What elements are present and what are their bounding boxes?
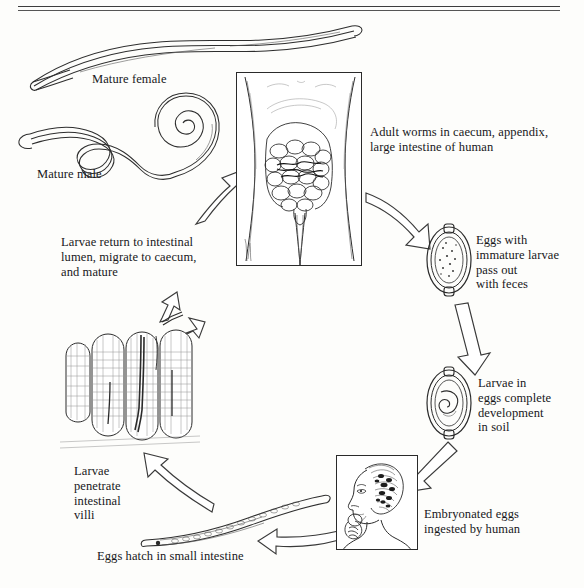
human-head-drawing [337, 456, 419, 551]
human-torso-drawing [237, 73, 363, 267]
intestinal-villi-illustration [60, 312, 200, 448]
label-larvae-soil: Larvae in eggs complete development in s… [478, 376, 551, 435]
label-penetrate-villi: Larvae penetrate intestinal villi [74, 464, 121, 523]
egg-embryonated-illustration [427, 367, 471, 439]
label-eggs-ingested: Embryonated eggs ingested by human [424, 507, 520, 537]
arrow-eggs-to-soil [455, 303, 490, 375]
label-eggs-immature: Eggs with immature larvae pass out with … [476, 233, 559, 292]
egg-immature-illustration [427, 224, 471, 296]
label-mature-male: Mature male [37, 167, 102, 182]
label-eggs-hatch: Eggs hatch in small intestine [97, 549, 244, 564]
label-larvae-return: Larvae return to intestinal lumen, migra… [61, 235, 196, 279]
label-adult-worms: Adult worms in caecum, appendix, large i… [370, 125, 548, 155]
human-head-panel [336, 455, 418, 550]
label-mature-female: Mature female [92, 72, 167, 87]
arrow-hatch-to-villi [144, 453, 214, 512]
human-torso-panel [236, 72, 362, 266]
life-cycle-figure: Mature female Mature male Adult worms in… [0, 0, 584, 588]
arrow-adult-to-eggs [366, 193, 430, 249]
